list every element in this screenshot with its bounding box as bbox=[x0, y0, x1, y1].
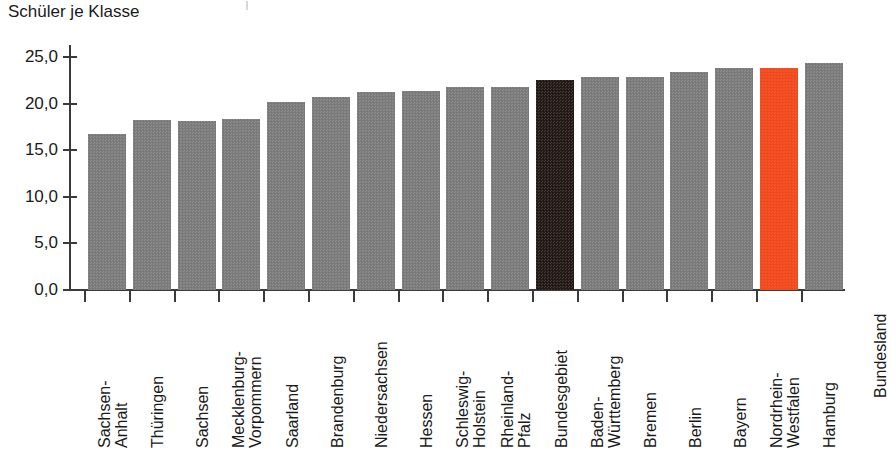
x-axis-category-label: Bayern bbox=[732, 397, 749, 448]
x-axis-category-label: Nordrhein- Westfalen bbox=[768, 372, 802, 448]
x-axis-category-label: Rheinland- Pfalz bbox=[499, 371, 533, 448]
bar bbox=[133, 120, 171, 290]
x-axis-title: Bundesland bbox=[872, 313, 889, 398]
bar bbox=[402, 91, 440, 290]
bar bbox=[626, 77, 664, 290]
bar bbox=[581, 77, 619, 290]
x-axis-category-label: Schleswig- Holstein bbox=[454, 371, 488, 448]
bar bbox=[357, 92, 395, 290]
bar bbox=[88, 134, 126, 290]
scan-artifact bbox=[246, 1, 248, 10]
x-axis-category-label: Saarland bbox=[284, 384, 301, 448]
bar bbox=[178, 121, 216, 290]
x-axis-category-label: Niedersachsen bbox=[373, 341, 390, 448]
x-axis-category-label: Bundesgebiet bbox=[553, 350, 570, 448]
x-axis-category-label: Berlin bbox=[687, 407, 704, 448]
bar bbox=[446, 87, 484, 290]
bar bbox=[312, 97, 350, 290]
bar bbox=[760, 68, 798, 290]
bar bbox=[805, 63, 843, 290]
x-axis-category-label: Sachsen- Anhalt bbox=[96, 380, 130, 448]
x-axis-category-label: Hamburg bbox=[821, 382, 838, 448]
x-axis-category-label: Brandenburg bbox=[329, 355, 346, 448]
x-axis-category-label: Sachsen bbox=[194, 386, 211, 448]
bar bbox=[536, 80, 574, 290]
x-axis-category-label: Thüringen bbox=[149, 376, 166, 448]
x-axis-category-label: Baden- Württemberg bbox=[589, 356, 623, 448]
bar bbox=[491, 87, 529, 290]
bar bbox=[715, 68, 753, 290]
bars-layer bbox=[0, 0, 896, 455]
x-axis-category-label: Mecklenburg- Vorpommern bbox=[230, 351, 264, 448]
bar bbox=[222, 119, 260, 290]
x-axis-category-label: Hessen bbox=[418, 394, 435, 448]
x-axis-category-label: Bremen bbox=[642, 392, 659, 448]
bar-chart: Schüler je Klasse 0,05,010,015,020,025,0… bbox=[0, 0, 896, 455]
bar bbox=[267, 102, 305, 290]
bar bbox=[670, 72, 708, 290]
